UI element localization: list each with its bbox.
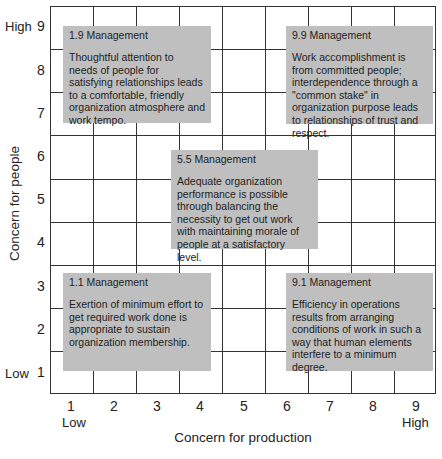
x-tick-1: 1 bbox=[64, 398, 78, 414]
box-9-9-management: 9.9 Management Work accomplishment is fr… bbox=[286, 26, 433, 124]
x-tick-8: 8 bbox=[366, 398, 380, 414]
box-title: 9.9 Management bbox=[292, 29, 427, 41]
box-1-1-management: 1.1 Management Exertion of minimum effor… bbox=[63, 273, 211, 371]
box-description: Thoughtful attention to needs of people … bbox=[69, 51, 205, 127]
y-tick-7: 7 bbox=[34, 105, 48, 121]
y-tick-4: 4 bbox=[34, 234, 48, 250]
box-title: 1.1 Management bbox=[69, 276, 205, 288]
x-tick-6: 6 bbox=[280, 398, 294, 414]
x-tick-4: 4 bbox=[193, 398, 207, 414]
box-title: 5.5 Management bbox=[177, 153, 312, 165]
x-axis-low-label: Low bbox=[62, 415, 86, 430]
y-axis-high-label: High bbox=[5, 19, 32, 34]
box-description: Efficiency in operations results from ar… bbox=[292, 298, 427, 374]
y-tick-2: 2 bbox=[34, 321, 48, 337]
y-tick-9: 9 bbox=[34, 18, 48, 34]
y-tick-1: 1 bbox=[34, 364, 48, 380]
x-tick-5: 5 bbox=[237, 398, 251, 414]
box-description: Adequate organization performance is pos… bbox=[177, 175, 312, 263]
x-tick-3: 3 bbox=[150, 398, 164, 414]
box-title: 1.9 Management bbox=[69, 29, 205, 41]
x-tick-2: 2 bbox=[107, 398, 121, 414]
box-9-1-management: 9.1 Management Efficiency in operations … bbox=[286, 273, 433, 371]
box-description: Work accomplishment is from committed pe… bbox=[292, 51, 427, 139]
y-tick-8: 8 bbox=[34, 62, 48, 78]
box-5-5-management: 5.5 Management Adequate organization per… bbox=[171, 150, 318, 249]
y-tick-3: 3 bbox=[34, 278, 48, 294]
x-axis-high-label: High bbox=[402, 415, 429, 430]
y-axis-title: Concern for people bbox=[7, 144, 22, 264]
y-tick-5: 5 bbox=[34, 191, 48, 207]
grid-hline bbox=[51, 265, 435, 267]
x-axis-title: Concern for production bbox=[50, 430, 436, 445]
x-tick-7: 7 bbox=[323, 398, 337, 414]
y-tick-6: 6 bbox=[34, 148, 48, 164]
x-tick-9: 9 bbox=[409, 398, 423, 414]
y-axis-low-label: Low bbox=[5, 366, 29, 381]
box-title: 9.1 Management bbox=[292, 276, 427, 288]
box-description: Exertion of minimum effort to get requir… bbox=[69, 298, 205, 348]
box-1-9-management: 1.9 Management Thoughtful attention to n… bbox=[63, 26, 211, 123]
